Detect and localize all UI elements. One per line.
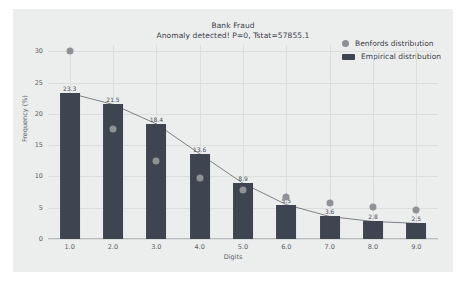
- bar-value-label: 18.4: [150, 116, 163, 123]
- benford-dot: [66, 47, 73, 54]
- chart-figure: Bank Fraud Anomaly detected! P=0, Tstat=…: [0, 0, 466, 281]
- bar: [363, 221, 383, 239]
- benford-dot: [153, 157, 160, 164]
- benford-dot: [110, 125, 117, 132]
- bar: [190, 154, 210, 239]
- x-tick-label: 4.0: [194, 243, 204, 251]
- bar: [320, 216, 340, 239]
- benford-dot: [370, 204, 377, 211]
- gridline-y: [48, 239, 438, 240]
- y-tick-label: 5: [39, 204, 43, 212]
- bar-value-label: 8.9: [238, 175, 248, 182]
- x-tick-label: 5.0: [238, 243, 248, 251]
- x-axis-label: Digits: [13, 253, 453, 261]
- benford-dot: [326, 199, 333, 206]
- x-tick-label: 9.0: [411, 243, 421, 251]
- benford-dot: [413, 207, 420, 214]
- bar-value-label: 23.3: [63, 85, 76, 92]
- bar-value-label: 13.6: [193, 146, 206, 153]
- y-axis-label: Frequency (%): [21, 95, 29, 142]
- x-tick-label: 2.0: [108, 243, 118, 251]
- benford-dot: [240, 186, 247, 193]
- bar: [60, 93, 80, 239]
- bar-value-label: 2.5: [412, 215, 422, 222]
- x-tick-label: 3.0: [151, 243, 161, 251]
- bar: [406, 223, 426, 239]
- y-tick-label: 20: [35, 110, 43, 118]
- y-tick-label: 25: [35, 79, 43, 87]
- y-tick-label: 15: [35, 141, 43, 149]
- x-tick-label: 7.0: [324, 243, 334, 251]
- y-tick-label: 10: [35, 172, 43, 180]
- bar-value-label: 21.5: [106, 96, 119, 103]
- x-tick-label: 8.0: [368, 243, 378, 251]
- y-tick-label: 30: [35, 47, 43, 55]
- benford-dot: [196, 175, 203, 182]
- page-title: Bank Fraud: [13, 21, 453, 30]
- x-tick-label: 1.0: [64, 243, 74, 251]
- plot-area: 23.321.518.413.68.95.53.62.82.5 05101520…: [48, 45, 438, 239]
- bar-value-label: 3.6: [325, 208, 335, 215]
- figure-canvas: Bank Fraud Anomaly detected! P=0, Tstat=…: [13, 9, 453, 272]
- y-tick-label: 0: [39, 235, 43, 243]
- x-tick-label: 6.0: [281, 243, 291, 251]
- bar-value-label: 2.8: [368, 213, 378, 220]
- benford-dot: [283, 194, 290, 201]
- title-block: Bank Fraud Anomaly detected! P=0, Tstat=…: [13, 21, 453, 41]
- bar: [146, 124, 166, 239]
- bar: [276, 205, 296, 239]
